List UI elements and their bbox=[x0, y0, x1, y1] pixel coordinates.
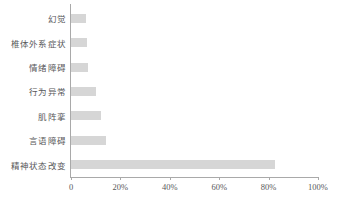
category-label-extrapyramidal-symptoms: 椎体外系症状 bbox=[11, 37, 66, 49]
category-label-altered-mental-status: 精神状态改变 bbox=[11, 159, 66, 171]
plot-area bbox=[71, 6, 318, 177]
bar-row bbox=[71, 79, 318, 103]
category-label-cell: 肌阵挛 bbox=[0, 104, 66, 128]
bar-chart: 幻觉 椎体外系症状 情绪障碍 行为异常 肌阵挛 言语障碍 精神状态改变 bbox=[0, 0, 338, 207]
x-tick-mark bbox=[269, 177, 270, 180]
bar-row bbox=[71, 104, 318, 128]
category-label-cell: 言语障碍 bbox=[0, 128, 66, 152]
category-label-behavioral-abnormality: 行为异常 bbox=[29, 85, 66, 97]
category-label-mood-disorder: 情绪障碍 bbox=[29, 61, 66, 73]
x-tick-label: 60% bbox=[211, 182, 227, 192]
category-label-cell: 幻觉 bbox=[0, 6, 66, 30]
bar-mood-disorder bbox=[71, 63, 88, 72]
x-tick-mark bbox=[120, 177, 121, 180]
x-tick-label: 100% bbox=[308, 182, 328, 192]
x-tick-label: 20% bbox=[113, 182, 129, 192]
bar-row bbox=[71, 153, 318, 177]
bar-row bbox=[71, 6, 318, 30]
bar-myoclonus bbox=[71, 111, 101, 120]
bar-row bbox=[71, 55, 318, 79]
x-tick-label: 40% bbox=[162, 182, 178, 192]
x-tick-mark bbox=[71, 177, 72, 180]
x-tick-label: 80% bbox=[261, 182, 277, 192]
category-label-cell: 椎体外系症状 bbox=[0, 30, 66, 54]
category-label-cell: 情绪障碍 bbox=[0, 55, 66, 79]
bar-hallucination bbox=[71, 14, 86, 23]
category-axis-labels: 幻觉 椎体外系症状 情绪障碍 行为异常 肌阵挛 言语障碍 精神状态改变 bbox=[0, 6, 66, 177]
bar-row bbox=[71, 128, 318, 152]
x-tick-mark bbox=[318, 177, 319, 180]
x-tick-label: 0 bbox=[69, 182, 73, 192]
bar-behavioral-abnormality bbox=[71, 87, 96, 96]
category-label-speech-disorder: 言语障碍 bbox=[29, 134, 66, 146]
bar-extrapyramidal-symptoms bbox=[71, 38, 87, 47]
x-tick-mark bbox=[170, 177, 171, 180]
bar-altered-mental-status bbox=[71, 160, 275, 169]
bar-row bbox=[71, 30, 318, 54]
x-tick-mark bbox=[219, 177, 220, 180]
x-axis-line bbox=[70, 177, 318, 178]
category-label-cell: 精神状态改变 bbox=[0, 153, 66, 177]
bar-rows bbox=[71, 6, 318, 177]
category-label-cell: 行为异常 bbox=[0, 79, 66, 103]
category-label-hallucination: 幻觉 bbox=[48, 12, 66, 24]
category-label-myoclonus: 肌阵挛 bbox=[38, 110, 66, 122]
bar-speech-disorder bbox=[71, 136, 106, 145]
